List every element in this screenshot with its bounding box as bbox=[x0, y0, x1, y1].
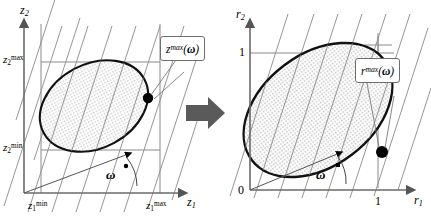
r-space-canvas bbox=[222, 0, 431, 224]
transition-arrow-icon bbox=[186, 96, 226, 130]
z2-axis-label: z2 bbox=[20, 4, 29, 18]
z1-axis-label: z1 bbox=[187, 196, 196, 210]
z-feasible-region bbox=[4, 26, 184, 212]
z-omega-angle-label: ω bbox=[106, 168, 115, 181]
z-callout-leader bbox=[151, 60, 184, 99]
r-origin-tick-label: 0 bbox=[238, 184, 244, 196]
r-extreme-point-dot bbox=[376, 146, 388, 158]
r-omega-angle-label: ω bbox=[316, 168, 325, 181]
figure-root: z2 z1 z2max z2min z1min z1max ω zmax(ω) bbox=[0, 0, 431, 224]
z-space-canvas bbox=[0, 0, 200, 224]
z2-max-tick-label: z2max bbox=[3, 54, 24, 67]
r-space-plot: r2 r1 0 1 1 ω rmax(ω) bbox=[222, 0, 431, 224]
r2-one-tick-label: 1 bbox=[239, 46, 245, 58]
r1-axis-label: r1 bbox=[414, 194, 423, 208]
z1-min-tick-label: z1min bbox=[28, 200, 47, 213]
r2-axis-label: r2 bbox=[236, 8, 245, 22]
z1-max-tick-label: z1max bbox=[146, 200, 167, 213]
r1-one-tick-label: 1 bbox=[375, 195, 381, 207]
r-max-omega-callout: rmax(ω) bbox=[355, 58, 400, 83]
z-space-plot: z2 z1 z2max z2min z1min z1max ω zmax(ω) bbox=[0, 0, 200, 224]
z-max-omega-callout: zmax(ω) bbox=[160, 36, 205, 61]
z2-min-tick-label: z2min bbox=[3, 142, 22, 155]
